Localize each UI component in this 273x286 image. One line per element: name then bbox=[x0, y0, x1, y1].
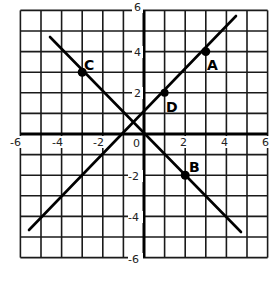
y-tick-label: 2 bbox=[134, 87, 141, 100]
y-tick-label: 6 bbox=[134, 1, 141, 14]
y-tick-label: -4 bbox=[128, 211, 139, 224]
point-c-label: C bbox=[84, 57, 94, 73]
x-tick-label: -6 bbox=[10, 136, 21, 149]
point-a-label: A bbox=[207, 57, 218, 73]
x-tick-label: 6 bbox=[262, 136, 269, 149]
x-tick-label: 2 bbox=[180, 136, 187, 149]
x-tick-label: 4 bbox=[221, 136, 228, 149]
x-tick-label: -2 bbox=[93, 136, 104, 149]
x-tick-labels: -6 -4 -2 0 2 4 6 bbox=[8, 136, 273, 150]
coordinate-plane: -6 -4 -2 0 2 4 6 6 4 2 -2 -4 -6 A D C B bbox=[0, 0, 273, 286]
y-tick-label: -2 bbox=[128, 170, 139, 183]
y-tick-label: 4 bbox=[134, 46, 141, 59]
x-tick-label: -4 bbox=[52, 136, 63, 149]
point-b-label: B bbox=[189, 159, 200, 175]
y-tick-label: -6 bbox=[128, 253, 139, 266]
point-d bbox=[161, 89, 169, 97]
x-tick-label: 0 bbox=[133, 137, 140, 150]
point-d-label: D bbox=[166, 99, 178, 115]
point-a bbox=[201, 47, 210, 56]
